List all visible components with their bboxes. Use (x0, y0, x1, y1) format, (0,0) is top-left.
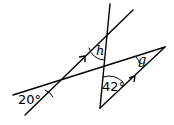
diagram-canvas: 20° h g 42° (0, 0, 174, 125)
label-angle-20: 20° (18, 92, 41, 107)
label-angle-g: g (138, 52, 146, 67)
label-angle-42: 42° (102, 79, 125, 94)
geometry-diagram: 20° h g 42° (0, 0, 174, 125)
label-angle-h: h (96, 43, 104, 58)
